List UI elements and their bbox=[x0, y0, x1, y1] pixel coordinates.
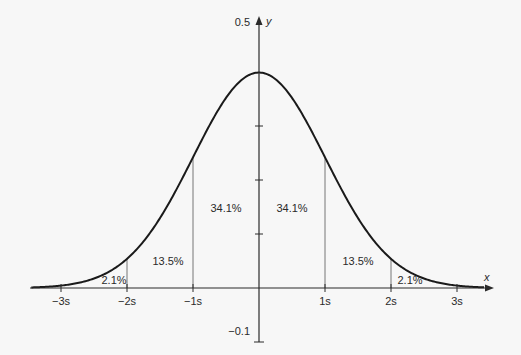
x-tick-label: 3s bbox=[451, 295, 463, 307]
x-axis-arrow-icon bbox=[485, 285, 494, 292]
x-tick-label: −2s bbox=[118, 295, 137, 307]
y-min-label: −0.1 bbox=[228, 325, 250, 337]
region-percent-label: 34.1% bbox=[276, 202, 307, 214]
region-percent-label: 34.1% bbox=[210, 202, 241, 214]
x-tick-label: −1s bbox=[184, 295, 203, 307]
x-tick-label: 2s bbox=[385, 295, 397, 307]
x-tick-label: −3s bbox=[52, 295, 71, 307]
y-axis-arrow-icon bbox=[256, 16, 263, 25]
region-percent-label: 13.5% bbox=[342, 255, 373, 267]
y-axis-label: y bbox=[265, 15, 273, 27]
normal-distribution-chart: −3s−2s−1s1s2s3s 2.1%13.5%34.1%34.1%13.5%… bbox=[0, 0, 521, 355]
y-max-label: 0.5 bbox=[235, 16, 250, 28]
region-percent-label: 13.5% bbox=[152, 255, 183, 267]
x-tick-label: 1s bbox=[319, 295, 331, 307]
region-labels: 2.1%13.5%34.1%34.1%13.5%2.1% bbox=[101, 202, 422, 286]
x-axis-label: x bbox=[483, 271, 490, 283]
region-percent-label: 2.1% bbox=[397, 274, 422, 286]
region-percent-label: 2.1% bbox=[101, 274, 126, 286]
